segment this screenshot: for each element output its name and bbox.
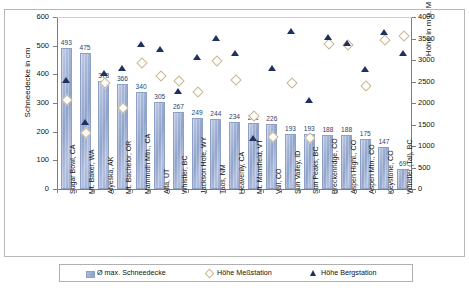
left-axis-title: Schneedecke in cm bbox=[23, 23, 32, 143]
x-axis-label: Mammoth Mtn., CA bbox=[144, 134, 151, 194]
chart-screenshot: Schneedecke in cm Höhe in m ü. M 0100200… bbox=[0, 0, 469, 290]
x-axis-label: Alta, UT bbox=[163, 169, 170, 194]
right-tick-label: 0 bbox=[418, 185, 450, 193]
legend-triangle-swatch bbox=[310, 270, 316, 276]
diamond-marker bbox=[211, 55, 222, 66]
triangle-marker bbox=[324, 34, 332, 40]
right-tick-label: 3500 bbox=[418, 35, 450, 43]
x-axis-label: Aspen Mtn., CO bbox=[368, 144, 375, 194]
bar-value-label: 340 bbox=[128, 83, 154, 90]
x-axis-label: Whistler (Tal), BC bbox=[406, 140, 413, 194]
right-tick-label: 2500 bbox=[418, 78, 450, 86]
diamond-marker bbox=[361, 80, 372, 91]
diamond-marker bbox=[286, 77, 297, 88]
triangle-marker bbox=[212, 35, 220, 41]
triangle-marker bbox=[305, 97, 313, 103]
bar-value-label: 475 bbox=[72, 44, 98, 51]
right-tick-label: 1500 bbox=[418, 121, 450, 129]
legend-label-bar: Ø max. Schneedecke bbox=[97, 268, 166, 277]
right-tick-mark bbox=[412, 82, 416, 83]
triangle-marker bbox=[118, 65, 126, 71]
diamond-marker bbox=[379, 34, 390, 45]
bar-value-label: 366 bbox=[109, 75, 135, 82]
x-axis-label: Taos, NM bbox=[219, 164, 226, 194]
right-tick-label: 1000 bbox=[418, 142, 450, 150]
left-tick-label: 600 bbox=[19, 13, 49, 21]
frame-top-border bbox=[4, 9, 465, 10]
triangle-marker bbox=[81, 119, 89, 125]
x-axis-label: Keystone, CO bbox=[387, 150, 394, 194]
triangle-marker bbox=[62, 77, 70, 83]
left-tick-label: 100 bbox=[19, 156, 49, 164]
x-axis-label: Breckenridge, CO bbox=[331, 138, 338, 194]
legend-label-triangle: Höhe Bergstation bbox=[321, 268, 377, 277]
legend-label-diamond: Höhe Meßstation bbox=[217, 268, 272, 277]
triangle-marker bbox=[268, 65, 276, 71]
x-axis-label: Mt. Mansfield, VT bbox=[256, 140, 263, 194]
right-tick-label: 2000 bbox=[418, 99, 450, 107]
chart-legend: Ø max. Schneedecke Höhe Meßstation Höhe … bbox=[59, 264, 413, 282]
frame-bottom-border bbox=[4, 256, 465, 257]
right-tick-mark bbox=[412, 39, 416, 40]
x-axis-label: Vail, CO bbox=[275, 168, 282, 194]
diamond-marker bbox=[192, 87, 203, 98]
x-axis-label: Aspen Highl., CO bbox=[350, 140, 357, 194]
right-tick-label: 4000 bbox=[418, 13, 450, 21]
x-axis-label: Mt. Bachelor, OR bbox=[125, 141, 132, 194]
triangle-marker bbox=[380, 29, 388, 35]
x-axis-label: Jackson Hole, WY bbox=[200, 137, 207, 194]
x-tick-mark bbox=[57, 189, 58, 193]
triangle-marker bbox=[399, 50, 407, 56]
left-tick-label: 0 bbox=[19, 185, 49, 193]
triangle-marker bbox=[361, 66, 369, 72]
diamond-marker bbox=[230, 75, 241, 86]
frame-left-border bbox=[4, 9, 5, 257]
x-axis-label: Heavenly, CA bbox=[238, 152, 245, 194]
left-tick-label: 500 bbox=[19, 42, 49, 50]
x-axis-label: Sugar Bowl, CA bbox=[69, 145, 76, 194]
legend-diamond-swatch bbox=[205, 269, 215, 279]
triangle-marker bbox=[343, 40, 351, 46]
triangle-marker bbox=[156, 46, 164, 52]
bar-value-label: 226 bbox=[259, 115, 285, 122]
triangle-marker bbox=[137, 41, 145, 47]
x-axis-label: Mt. Baker, WA bbox=[88, 150, 95, 194]
triangle-marker bbox=[193, 54, 201, 60]
left-tick-label: 200 bbox=[19, 128, 49, 136]
right-tick-mark bbox=[412, 60, 416, 61]
right-tick-mark bbox=[412, 103, 416, 104]
x-axis-label: Alyeska, AK bbox=[107, 157, 114, 194]
right-tick-label: 500 bbox=[418, 164, 450, 172]
x-axis-label: Sun Valley, ID bbox=[294, 151, 301, 194]
diamond-marker bbox=[155, 71, 166, 82]
x-axis-label: Sun Peaks, BC bbox=[312, 147, 319, 194]
x-axis-label: Whistler, BC bbox=[181, 155, 188, 194]
triangle-marker bbox=[231, 50, 239, 56]
frame-right-border bbox=[464, 9, 465, 257]
triangle-marker bbox=[174, 88, 182, 94]
diamond-marker bbox=[398, 31, 409, 42]
right-tick-mark bbox=[412, 125, 416, 126]
diamond-marker bbox=[174, 76, 185, 87]
left-tick-label: 400 bbox=[19, 70, 49, 78]
triangle-marker bbox=[287, 28, 295, 34]
diamond-marker bbox=[136, 57, 147, 68]
bar-value-label: 175 bbox=[352, 130, 378, 137]
legend-bar-swatch bbox=[86, 271, 95, 278]
triangle-marker bbox=[100, 70, 108, 76]
right-tick-label: 3000 bbox=[418, 56, 450, 64]
bar-value-label: 305 bbox=[147, 93, 173, 100]
right-tick-mark bbox=[412, 17, 416, 18]
left-tick-label: 300 bbox=[19, 99, 49, 107]
